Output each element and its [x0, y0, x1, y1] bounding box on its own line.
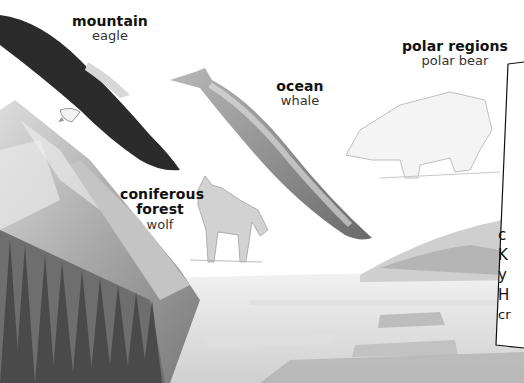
label-ocean: ocean whale — [270, 79, 330, 109]
polar-bear-illustration — [346, 92, 500, 178]
habitat-name: polar regions — [395, 39, 515, 54]
habitat-name-line2: forest — [120, 202, 200, 217]
side-box-line: c — [498, 225, 511, 245]
animal-name: polar bear — [395, 54, 515, 68]
label-mountain: mountain eagle — [62, 14, 158, 44]
animal-name: whale — [270, 94, 330, 108]
label-coniferous-forest: coniferous forest wolf — [120, 187, 200, 232]
side-box-line: H — [498, 285, 511, 305]
side-box-text: c K y H cr — [498, 225, 511, 325]
habitat-name: ocean — [270, 79, 330, 94]
side-box-line: y — [498, 265, 511, 285]
animal-name: wolf — [120, 218, 200, 232]
side-box-line: cr — [498, 305, 511, 325]
side-box-line: K — [498, 245, 511, 265]
habitat-name: mountain — [62, 14, 158, 29]
animal-name: eagle — [62, 29, 158, 43]
label-polar-regions: polar regions polar bear — [395, 39, 515, 69]
habitat-name-line1: coniferous — [120, 187, 200, 202]
frozen-sea — [150, 215, 524, 383]
